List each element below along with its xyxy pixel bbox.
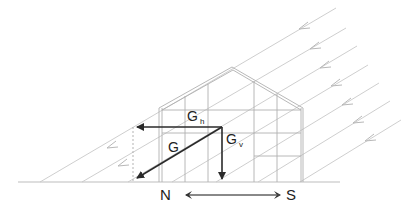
label-south: S bbox=[286, 186, 296, 203]
label-gv: Gv bbox=[226, 131, 243, 149]
label-gh: Gh bbox=[187, 108, 204, 126]
label-g: G bbox=[168, 139, 179, 155]
sun-rays bbox=[40, 8, 401, 182]
vectors bbox=[137, 127, 222, 179]
vector-g bbox=[137, 127, 222, 178]
greenhouse-sunlight-diagram: Gh Gv G N S bbox=[0, 0, 416, 212]
label-north: N bbox=[160, 186, 171, 203]
